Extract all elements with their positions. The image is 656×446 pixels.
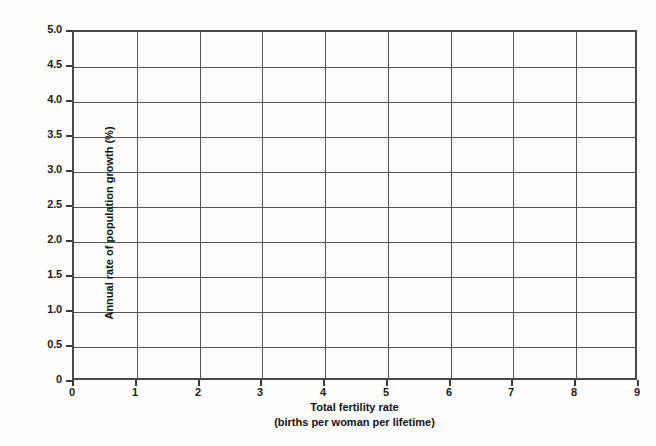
y-tick-mark <box>66 135 72 137</box>
gridline-horizontal <box>74 137 635 138</box>
x-tick-label: 2 <box>195 386 201 398</box>
x-tick-label: 5 <box>383 386 389 398</box>
y-tick-label: 4.5 <box>47 58 62 70</box>
gridline-vertical <box>513 32 514 378</box>
gridline-vertical <box>388 32 389 378</box>
y-tick-label: 2.0 <box>47 233 62 245</box>
gridline-horizontal <box>74 207 635 208</box>
y-tick-mark <box>66 310 72 312</box>
gridline-vertical <box>200 32 201 378</box>
y-tick-label: 4.0 <box>47 93 62 105</box>
gridline-vertical <box>576 32 577 378</box>
x-tick-label: 9 <box>634 386 640 398</box>
gridline-horizontal <box>74 277 635 278</box>
gridline-horizontal <box>74 347 635 348</box>
gridline-vertical <box>137 32 138 378</box>
x-axis-label: Total fertility rate (births per woman p… <box>72 400 637 430</box>
x-tick-label: 3 <box>257 386 263 398</box>
x-axis-label-main: Total fertility rate <box>72 400 637 415</box>
y-tick-mark <box>66 65 72 67</box>
x-tick-label: 6 <box>446 386 452 398</box>
y-tick-mark <box>66 345 72 347</box>
gridline-horizontal <box>74 102 635 103</box>
y-tick-mark <box>66 240 72 242</box>
x-tick-label: 1 <box>132 386 138 398</box>
y-tick-mark <box>66 170 72 172</box>
gridline-vertical <box>451 32 452 378</box>
y-tick-mark <box>66 100 72 102</box>
gridline-horizontal <box>74 67 635 68</box>
y-tick-mark <box>66 275 72 277</box>
x-tick-label: 7 <box>508 386 514 398</box>
y-tick-label: 0.5 <box>47 338 62 350</box>
gridline-vertical <box>262 32 263 378</box>
y-tick-label: 3.5 <box>47 128 62 140</box>
x-tick-label: 0 <box>69 386 75 398</box>
y-tick-mark <box>66 30 72 32</box>
y-tick-label: 3.0 <box>47 163 62 175</box>
y-tick-label: 5.0 <box>47 23 62 35</box>
gridline-horizontal <box>74 312 635 313</box>
y-tick-label: 1.0 <box>47 303 62 315</box>
plot-area <box>72 30 637 380</box>
x-axis-label-sub: (births per woman per lifetime) <box>72 415 637 430</box>
x-tick-label: 8 <box>571 386 577 398</box>
chart-figure: Annual rate of population growth (%) Tot… <box>0 0 656 446</box>
x-tick-label: 4 <box>320 386 326 398</box>
y-tick-label: 1.5 <box>47 268 62 280</box>
gridline-vertical <box>325 32 326 378</box>
y-axis-label: Annual rate of population growth (%) <box>103 126 115 319</box>
gridline-horizontal <box>74 172 635 173</box>
y-tick-label: 0 <box>56 373 62 385</box>
y-tick-label: 2.5 <box>47 198 62 210</box>
y-tick-mark <box>66 205 72 207</box>
gridline-horizontal <box>74 242 635 243</box>
